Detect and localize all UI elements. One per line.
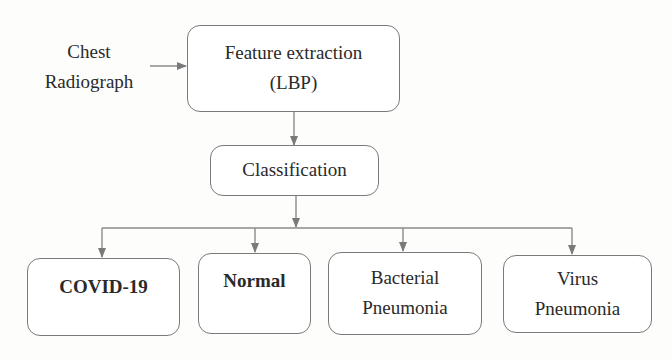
bacterial-label-line1: Bacterial xyxy=(371,263,440,293)
output-box-bacterial: Bacterial Pneumonia xyxy=(328,252,482,335)
output-box-covid: COVID-19 xyxy=(27,258,180,336)
input-label-line2: Radiograph xyxy=(45,71,134,92)
classification-label: Classification xyxy=(242,159,346,182)
feature-box-line1: Feature extraction xyxy=(225,38,363,68)
covid-label: COVID-19 xyxy=(59,276,148,299)
output-box-virus: Virus Pneumonia xyxy=(503,255,652,333)
virus-label-line1: Virus xyxy=(557,264,598,294)
input-label-line1: Chest xyxy=(67,41,110,62)
bacterial-label-line2: Pneumonia xyxy=(362,293,448,323)
input-label: Chest Radiograph xyxy=(30,37,148,97)
output-box-normal: Normal xyxy=(198,253,311,334)
normal-label: Normal xyxy=(223,270,285,293)
virus-label-line2: Pneumonia xyxy=(535,294,621,324)
feature-extraction-box: Feature extraction (LBP) xyxy=(187,25,400,112)
classification-box: Classification xyxy=(210,145,379,196)
feature-box-line2: (LBP) xyxy=(270,68,318,98)
